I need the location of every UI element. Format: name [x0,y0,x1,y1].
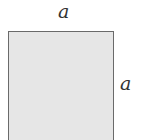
right-side-label: a [120,74,131,93]
top-side-label: a [58,2,69,21]
square-shape [8,31,114,140]
